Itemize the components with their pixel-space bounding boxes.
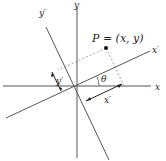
point-p (104, 46, 108, 50)
x-prime-axis (6, 51, 150, 118)
label-y-axis: y (73, 0, 80, 10)
label-point-p: P = (x, y) (91, 32, 144, 45)
arrowhead-icon (86, 97, 91, 101)
dashed-projection-to-x-prime (106, 48, 124, 86)
label-y-prime-length: y′ (55, 76, 63, 86)
theta-arc (97, 77, 99, 86)
label-x-prime-axis: x′ (152, 45, 159, 55)
label-x-prime-length: x′ (104, 95, 111, 105)
dashed-projection-to-y-prime (58, 48, 106, 70)
label-y-prime-axis: y′ (38, 8, 46, 18)
label-theta: θ (101, 74, 107, 84)
rotated-axes-diagram: P = (x, y) y y′ x x′ θ x′ y′ (0, 0, 166, 161)
label-x-axis: x (155, 82, 160, 92)
